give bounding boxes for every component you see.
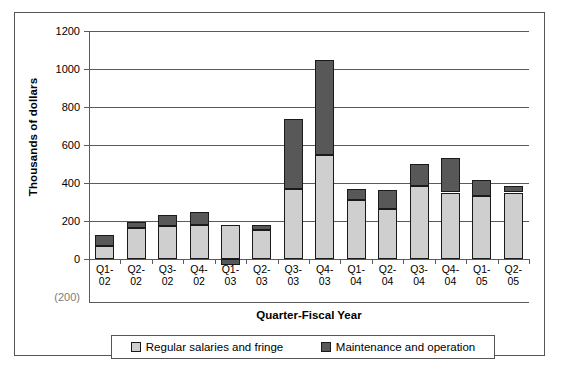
bar-segment-salaries: [504, 193, 523, 260]
x-axis-tick-label-line: 04: [340, 275, 371, 287]
gridline: [89, 69, 529, 70]
x-axis-tick-label-line: Q1-: [89, 263, 120, 275]
y-axis-tick: [84, 145, 89, 146]
bar-segment-maintenance: [347, 189, 366, 200]
y-axis-tick-label: 400: [62, 177, 80, 189]
gridline: [89, 221, 529, 222]
y-axis-title: Thousands of dollars: [27, 57, 39, 217]
x-axis-tick-label-line: Q4-: [309, 263, 340, 275]
legend-swatch-icon: [321, 342, 331, 352]
x-axis-tick-label-line: Q3-: [278, 263, 309, 275]
bar-column: [472, 31, 491, 259]
x-axis-tick-label-line: Q2-: [498, 263, 529, 275]
x-axis-tick-label: Q2-04: [372, 263, 403, 287]
bar-segment-maintenance: [504, 186, 523, 193]
y-axis-tick: [84, 31, 89, 32]
y-axis-tick-label: 1000: [56, 63, 80, 75]
x-axis-tick-label: Q4-03: [309, 263, 340, 287]
legend-label: Regular salaries and fringe: [146, 341, 283, 353]
x-axis-tick-label-line: Q2-: [372, 263, 403, 275]
bar-segment-salaries: [221, 225, 240, 259]
bar-segment-maintenance: [284, 119, 303, 188]
legend-swatch-icon: [131, 342, 141, 352]
x-axis-tick-label-line: 02: [89, 275, 120, 287]
x-axis-tick-label: Q2-05: [498, 263, 529, 287]
legend-entry[interactable]: Regular salaries and fringe: [131, 341, 283, 353]
x-axis-tick-label-line: 05: [498, 275, 529, 287]
bar-segment-maintenance: [158, 215, 177, 225]
bar-segment-maintenance: [410, 164, 429, 186]
x-axis-tick-label-line: 04: [403, 275, 434, 287]
y-axis-tick-label: 800: [62, 101, 80, 113]
x-axis-tick-label-line: 02: [120, 275, 151, 287]
bar-segment-salaries: [252, 230, 271, 259]
category-label-baseline: [89, 302, 529, 303]
bar-segment-salaries: [190, 225, 209, 259]
legend-label: Maintenance and operation: [336, 341, 475, 353]
x-axis-tick-label: Q4-02: [183, 263, 214, 287]
x-axis-tick-label-line: 02: [183, 275, 214, 287]
bar-column: [504, 31, 523, 259]
x-axis-tick-label-line: Q1-: [215, 263, 246, 275]
chart-legend: Regular salaries and fringeMaintenance a…: [111, 335, 495, 359]
y-axis-tick: [84, 183, 89, 184]
bar-segment-salaries: [378, 209, 397, 259]
x-axis-tick-label: Q2-03: [246, 263, 277, 287]
x-axis-tick-label-line: 03: [215, 275, 246, 287]
bar-segment-salaries: [347, 200, 366, 259]
bar-column: [441, 31, 460, 259]
bar-segment-maintenance: [315, 60, 334, 155]
bar-column: [158, 31, 177, 259]
x-axis-title: Quarter-Fiscal Year: [89, 309, 529, 321]
y-axis-tick-label: 200: [62, 215, 80, 227]
x-axis-tick-label-line: 04: [435, 275, 466, 287]
y-axis-tick-label: 0: [74, 253, 80, 265]
bar-segment-maintenance: [472, 180, 491, 196]
x-axis-tick-label-line: 03: [246, 275, 277, 287]
gridline: [89, 145, 529, 146]
x-axis-tick-label-line: Q1-: [466, 263, 497, 275]
x-axis-tick-label-line: Q2-: [120, 263, 151, 275]
x-axis-tick-label-line: 02: [152, 275, 183, 287]
x-axis-tick-label-line: 03: [309, 275, 340, 287]
x-axis-tick-label-line: Q2-: [246, 263, 277, 275]
bar-segment-salaries: [158, 226, 177, 259]
bar-segment-maintenance: [378, 190, 397, 209]
x-axis-tick-label-line: Q4-: [183, 263, 214, 275]
bar-column: [410, 31, 429, 259]
plot-area: 120010008006004002000(200): [89, 31, 529, 259]
x-axis-tick: [529, 259, 530, 264]
x-axis-tick-label: Q1-05: [466, 263, 497, 287]
y-axis-tick: [84, 69, 89, 70]
legend-entry[interactable]: Maintenance and operation: [321, 341, 475, 353]
y-axis-tick-label: (200): [54, 291, 80, 303]
x-axis-tick-label: Q3-02: [152, 263, 183, 287]
bar-segment-salaries: [441, 193, 460, 260]
bar-segment-salaries: [95, 246, 114, 259]
x-axis-tick-label-line: Q1-: [340, 263, 371, 275]
gridline: [89, 183, 529, 184]
x-axis-tick-label-line: Q3-: [152, 263, 183, 275]
bar-column: [221, 31, 240, 259]
x-axis-tick-label: Q4-04: [435, 263, 466, 287]
x-axis-tick-label: Q1-04: [340, 263, 371, 287]
x-axis-tick-label-line: Q3-: [403, 263, 434, 275]
x-axis-tick-label-line: 03: [278, 275, 309, 287]
y-axis-tick-label: 1200: [56, 25, 80, 37]
bar-segment-salaries: [284, 189, 303, 259]
x-axis-tick-label-line: Q4-: [435, 263, 466, 275]
x-axis-tick-label: Q1-02: [89, 263, 120, 287]
bar-column: [284, 31, 303, 259]
x-axis-tick-label: Q3-03: [278, 263, 309, 287]
bar-column: [190, 31, 209, 259]
y-axis-tick: [84, 107, 89, 108]
bar-segment-maintenance: [95, 235, 114, 245]
bar-segment-maintenance: [190, 212, 209, 224]
x-axis-tick: [89, 259, 90, 264]
bar-column: [95, 31, 114, 259]
bar-segment-maintenance: [127, 222, 146, 228]
bar-segment-maintenance: [252, 225, 271, 230]
x-axis-tick-label: Q3-04: [403, 263, 434, 287]
x-axis-tick-label: Q2-02: [120, 263, 151, 287]
y-axis-tick-label: 600: [62, 139, 80, 151]
